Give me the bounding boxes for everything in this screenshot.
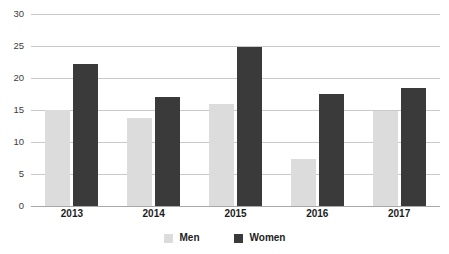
women-swatch-icon	[234, 234, 243, 243]
bar-women-2013	[73, 64, 98, 206]
plot-area	[31, 14, 440, 206]
y-axis-tick-label: 20	[0, 73, 24, 83]
x-axis-tick-label: 2016	[306, 209, 328, 219]
x-axis-tick-label: 2013	[61, 209, 83, 219]
legend-label: Women	[250, 233, 286, 243]
bar-women-2017	[401, 88, 426, 206]
y-axis-tick-label: 25	[0, 41, 24, 51]
bar-men-2017	[373, 111, 398, 206]
legend-item-women[interactable]: Women	[234, 233, 286, 243]
bar-group	[195, 14, 277, 206]
bar-group	[31, 14, 113, 206]
legend-label: Men	[180, 233, 200, 243]
y-axis-tick-label: 15	[0, 105, 24, 115]
bar-men-2016	[291, 159, 316, 206]
bar-men-2015	[209, 104, 234, 206]
men-swatch-icon	[164, 234, 173, 243]
bar-group	[358, 14, 440, 206]
legend-item-men[interactable]: Men	[164, 233, 200, 243]
axis-line-zero	[31, 206, 440, 207]
bar-women-2015	[237, 47, 262, 206]
bar-group	[113, 14, 195, 206]
chart-legend: MenWomen	[0, 233, 449, 243]
bar-men-2013	[45, 110, 70, 206]
y-axis-tick-label: 0	[0, 201, 24, 211]
x-axis-tick-label: 2014	[143, 209, 165, 219]
bar-group	[276, 14, 358, 206]
y-axis-tick-label: 10	[0, 137, 24, 147]
bar-chart: 051015202530 20132014201520162017 MenWom…	[0, 0, 449, 254]
bar-women-2016	[319, 94, 344, 206]
bar-men-2014	[127, 118, 152, 206]
x-axis-tick-label: 2015	[224, 209, 246, 219]
bar-women-2014	[155, 97, 180, 206]
y-axis-tick-label: 5	[0, 169, 24, 179]
y-axis: 051015202530	[0, 14, 24, 206]
x-axis: 20132014201520162017	[31, 209, 440, 227]
y-axis-tick-label: 30	[0, 9, 24, 19]
x-axis-tick-label: 2017	[388, 209, 410, 219]
